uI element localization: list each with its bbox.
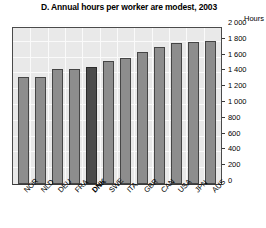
y-axis-tick: 400 — [222, 144, 240, 153]
y-axis-tick-label: 1 200 — [228, 81, 246, 90]
y-axis-tick: 1 800 — [222, 34, 246, 43]
bar-slot — [168, 28, 185, 184]
y-axis-tick-label: 600 — [228, 129, 240, 138]
y-axis-tick-label: 1 600 — [228, 50, 246, 59]
bar-fra — [69, 69, 80, 184]
x-label-slot: CAN — [151, 186, 168, 228]
bar-gbr — [137, 52, 148, 184]
y-axis-tick-label: 1 400 — [228, 65, 246, 74]
x-label-slot: JPN — [186, 186, 203, 228]
y-axis-tick: 1 600 — [222, 50, 246, 59]
x-label-slot: ITA — [117, 186, 134, 228]
bar-slot — [117, 28, 134, 184]
y-axis-tick: 1 400 — [222, 65, 246, 74]
chart-title: D. Annual hours per worker are modest, 2… — [0, 2, 258, 12]
tick-mark-icon — [222, 85, 225, 86]
bar-deu — [52, 69, 63, 184]
bar-slot — [100, 28, 117, 184]
bar-aus — [205, 41, 216, 184]
bar-dnk — [86, 67, 97, 184]
bar-slot — [49, 28, 66, 184]
x-label-slot: NLD — [31, 186, 48, 228]
x-label-slot: USA — [169, 186, 186, 228]
bar-swe — [103, 61, 114, 184]
y-axis-tick-label: 200 — [228, 160, 240, 169]
bar-jpn — [188, 42, 199, 184]
x-label-slot: NOR — [14, 186, 31, 228]
bar-slot — [66, 28, 83, 184]
gridline-horizontal — [13, 25, 221, 26]
bar-slot — [15, 28, 32, 184]
x-label-slot: GBR — [134, 186, 151, 228]
bar-slot — [32, 28, 49, 184]
y-axis-unit-label: Hours — [244, 14, 264, 23]
bar-slot — [202, 28, 219, 184]
tick-mark-icon — [222, 133, 225, 134]
bar-can — [154, 47, 165, 184]
y-axis-tick: 600 — [222, 129, 240, 138]
x-axis-labels: NORNLDDEUFRADNKSWEITAGBRCANUSAJPNAUS — [12, 186, 222, 228]
y-axis-tick-label: 2 000 — [228, 18, 246, 27]
bar-nld — [35, 77, 46, 184]
tick-mark-icon — [222, 101, 225, 102]
y-axis-tick-label: 400 — [228, 144, 240, 153]
bar-slot — [134, 28, 151, 184]
y-axis-tick: 1 000 — [222, 97, 246, 106]
tick-mark-icon — [222, 22, 225, 23]
bar-nor — [18, 77, 29, 184]
bar-usa — [171, 43, 182, 184]
bar-series — [13, 28, 221, 184]
y-axis-tick: 200 — [222, 160, 240, 169]
tick-mark-icon — [222, 117, 225, 118]
x-label-slot: SWE — [100, 186, 117, 228]
y-axis-tick: 800 — [222, 113, 240, 122]
bar-slot — [83, 28, 100, 184]
y-axis: 02004006008001 0001 2001 4001 6001 8002 … — [222, 27, 266, 185]
plot-area — [12, 27, 222, 185]
y-axis-tick-label: 0 — [228, 176, 232, 185]
tick-mark-icon — [222, 54, 225, 55]
tick-mark-icon — [222, 148, 225, 149]
tick-mark-icon — [222, 164, 225, 165]
x-label-slot: DEU — [48, 186, 65, 228]
y-axis-tick-label: 1 000 — [228, 97, 246, 106]
x-label-slot: AUS — [203, 186, 220, 228]
y-axis-tick: 2 000 — [222, 18, 246, 27]
bar-slot — [185, 28, 202, 184]
bar-slot — [151, 28, 168, 184]
y-axis-tick: 1 200 — [222, 81, 246, 90]
tick-mark-icon — [222, 38, 225, 39]
tick-mark-icon — [222, 69, 225, 70]
y-axis-tick-label: 800 — [228, 113, 240, 122]
x-label-slot: DNK — [83, 186, 100, 228]
chart-figure: D. Annual hours per worker are modest, 2… — [0, 0, 266, 228]
x-label-slot: FRA — [66, 186, 83, 228]
y-axis-tick-label: 1 800 — [228, 34, 246, 43]
bar-ita — [120, 58, 131, 184]
